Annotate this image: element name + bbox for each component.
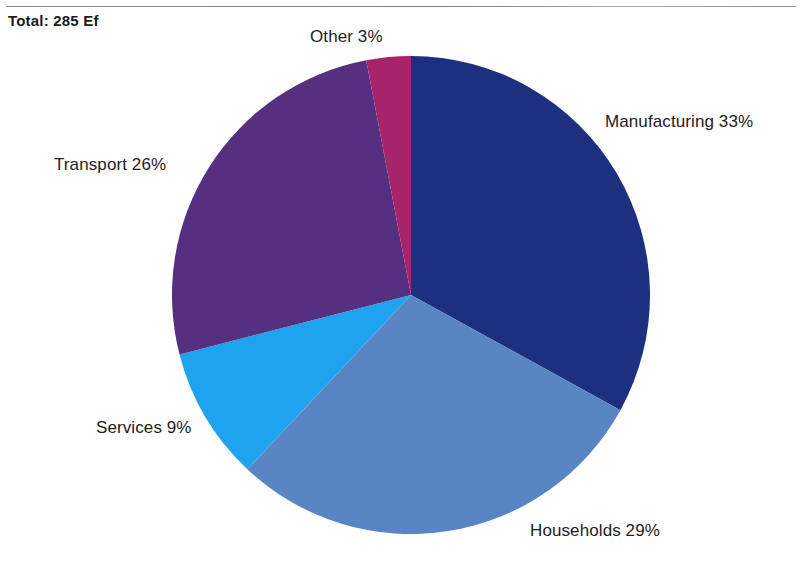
pie-slice-group [172,56,650,534]
top-divider-rule [6,6,796,7]
pie-chart-figure: Total: 285 Ef Manufacturing 33% Househol… [0,0,802,561]
slice-label-services: Services 9% [96,418,192,438]
chart-total-label: Total: 285 Ef [8,12,99,29]
pie-svg [171,55,651,535]
slice-label-transport: Transport 26% [54,155,166,175]
slice-label-households: Households 29% [530,521,660,541]
slice-label-manufacturing: Manufacturing 33% [605,112,753,132]
slice-label-other: Other 3% [310,27,383,47]
pie-graphic [171,55,651,535]
